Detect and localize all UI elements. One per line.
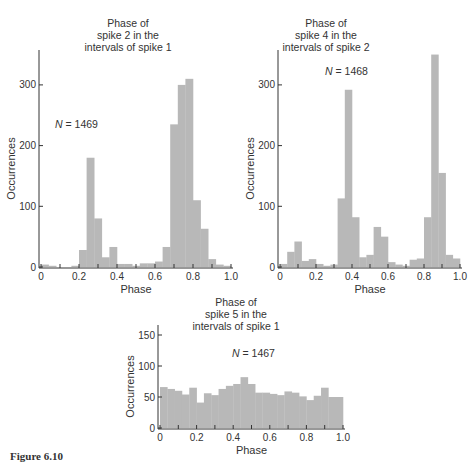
chart-title: intervals of spike 1 xyxy=(85,41,172,53)
y-tick-label: 300 xyxy=(258,79,275,90)
y-tick-label: 0 xyxy=(149,423,155,434)
bar xyxy=(140,263,148,267)
y-axis-label: Occurrences xyxy=(5,137,17,200)
y-tick-label: 100 xyxy=(19,201,36,212)
bar xyxy=(381,237,389,267)
bar xyxy=(277,395,285,428)
bar xyxy=(211,395,219,428)
bar xyxy=(71,266,79,267)
x-tick-label: 1.0 xyxy=(453,271,467,282)
bar xyxy=(302,261,310,267)
bar xyxy=(352,217,360,267)
y-axis-label: Occurrences xyxy=(124,355,136,418)
bar xyxy=(182,395,190,428)
x-axis-label: Phase xyxy=(120,283,151,295)
x-tick-label: 0.8 xyxy=(299,432,313,443)
bar xyxy=(328,397,336,428)
chart-title: Phase of xyxy=(305,17,347,29)
x-tick-label: 0.2 xyxy=(190,432,204,443)
bar xyxy=(255,393,263,428)
bar xyxy=(219,389,227,428)
bar xyxy=(241,377,249,428)
sample-size-annotation: N = 1467 xyxy=(232,347,275,359)
y-tick-label: 50 xyxy=(144,392,156,403)
bar xyxy=(117,264,125,267)
bar xyxy=(163,247,171,267)
bar xyxy=(270,394,278,428)
bar xyxy=(87,158,95,267)
bar xyxy=(233,384,241,428)
x-tick-label: 0.2 xyxy=(309,271,323,282)
y-axis-label: Occurrences xyxy=(244,137,256,200)
figure-caption: Figure 6.10 xyxy=(10,450,63,462)
bar xyxy=(431,55,439,267)
chart-title: Phase of xyxy=(215,296,257,308)
bar xyxy=(175,391,183,428)
bar xyxy=(49,266,57,267)
x-tick-label: 0 xyxy=(157,432,163,443)
histogram-chart2: 010020030000.20.40.60.81.0PhaseOccurrenc… xyxy=(244,17,467,295)
bar xyxy=(102,257,110,267)
bar xyxy=(292,393,300,428)
bar xyxy=(201,229,209,267)
bar xyxy=(299,396,307,428)
bar xyxy=(262,393,270,428)
bar xyxy=(294,242,302,267)
chart-title: spike 4 in the xyxy=(295,29,357,41)
bar xyxy=(417,259,425,268)
bar xyxy=(359,257,367,267)
x-tick-label: 0.4 xyxy=(345,271,359,282)
y-tick-label: 200 xyxy=(258,140,275,151)
bars xyxy=(280,55,460,267)
chart-title: spike 2 in the xyxy=(97,29,159,41)
bar xyxy=(453,259,461,268)
bar xyxy=(189,388,197,428)
bar xyxy=(223,266,231,267)
bar xyxy=(125,264,133,267)
bar xyxy=(388,262,396,267)
bar xyxy=(226,386,234,428)
bar xyxy=(204,393,212,428)
bar xyxy=(109,247,117,267)
y-tick-label: 100 xyxy=(138,361,155,372)
bar xyxy=(94,218,102,267)
x-tick-label: 1.0 xyxy=(224,271,238,282)
bar xyxy=(323,266,331,267)
y-tick-label: 100 xyxy=(258,201,275,212)
figure-canvas: 010020030000.20.40.60.81.0PhaseOccurrenc… xyxy=(0,0,472,468)
bar xyxy=(314,396,322,428)
sample-size-annotation: N = 1469 xyxy=(55,118,98,130)
bar xyxy=(424,217,432,267)
bar xyxy=(306,400,314,428)
x-tick-label: 0.4 xyxy=(226,432,240,443)
chart-title: intervals of spike 1 xyxy=(193,320,280,332)
bar xyxy=(193,200,201,267)
bar xyxy=(167,389,175,428)
x-axis-label: Phase xyxy=(236,444,267,456)
x-tick-label: 0.8 xyxy=(417,271,431,282)
y-tick-label: 200 xyxy=(19,140,36,151)
bar xyxy=(446,255,454,267)
bar xyxy=(284,391,292,428)
chart-title: spike 5 in the xyxy=(205,308,267,320)
chart-title: Phase of xyxy=(107,17,149,29)
x-tick-label: 1.0 xyxy=(336,432,350,443)
x-tick-label: 0.6 xyxy=(381,271,395,282)
chart-title: intervals of spike 2 xyxy=(283,41,370,53)
x-tick-label: 0.6 xyxy=(148,271,162,282)
histogram-chart3: 05010015000.20.40.60.81.0PhaseOccurrence… xyxy=(124,296,350,456)
bar xyxy=(345,90,353,267)
x-axis-label: Phase xyxy=(354,283,385,295)
x-tick-label: 0 xyxy=(277,271,283,282)
bar xyxy=(316,264,324,267)
sample-size-annotation: N = 1468 xyxy=(325,65,368,77)
y-tick-label: 300 xyxy=(19,79,36,90)
bar xyxy=(160,387,168,428)
bar xyxy=(410,260,418,267)
histogram-chart1: 010020030000.20.40.60.81.0PhaseOccurrenc… xyxy=(5,17,238,295)
y-tick-label: 150 xyxy=(138,330,155,341)
x-tick-label: 0.4 xyxy=(110,271,124,282)
x-tick-label: 0 xyxy=(38,271,44,282)
y-tick-label: 0 xyxy=(30,262,36,273)
bar xyxy=(287,252,295,267)
